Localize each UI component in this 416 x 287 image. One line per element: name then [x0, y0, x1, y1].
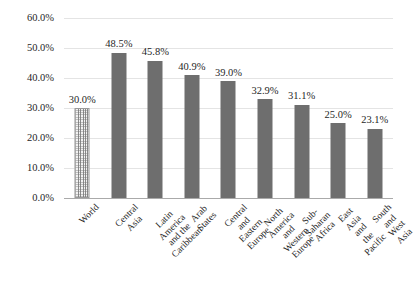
y-tick-label: 20.0% — [27, 133, 54, 144]
bar[interactable] — [294, 105, 309, 198]
bar-value-label: 25.0% — [325, 110, 352, 121]
bar-group: 48.5% — [101, 18, 138, 198]
bar-group: 25.0% — [320, 18, 357, 198]
x-tick: Sub-Saharan Africa — [283, 200, 320, 287]
bar[interactable] — [111, 53, 126, 199]
x-tick: Central and Eastern Europe — [210, 200, 247, 287]
bar-value-label: 40.9% — [178, 62, 205, 73]
bar-value-label: 45.8% — [142, 47, 169, 58]
y-tick-label: 50.0% — [27, 43, 54, 54]
y-tick-label: 0.0% — [32, 193, 54, 204]
x-axis: WorldCentral AsiaLatin America and the C… — [64, 200, 393, 287]
y-tick-label: 10.0% — [27, 163, 54, 174]
bar-value-label: 32.9% — [251, 86, 278, 97]
bar[interactable] — [221, 81, 236, 198]
bar-group: 23.1% — [356, 18, 393, 198]
bar-value-label: 31.1% — [288, 91, 315, 102]
bar[interactable] — [75, 108, 90, 198]
bar-value-label: 30.0% — [69, 95, 96, 106]
x-tick-label: World — [77, 202, 101, 226]
x-tick-label: South and West Asia — [370, 202, 415, 247]
bar-group: 30.0% — [64, 18, 101, 198]
bar-group: 31.1% — [283, 18, 320, 198]
bar[interactable] — [258, 99, 273, 198]
bar[interactable] — [367, 129, 382, 198]
bar-group: 40.9% — [174, 18, 211, 198]
y-tick-label: 60.0% — [27, 13, 54, 24]
y-tick-label: 30.0% — [27, 103, 54, 114]
y-axis: 0.0%10.0%20.0%30.0%40.0%50.0%60.0% — [0, 18, 60, 198]
y-tick-label: 40.0% — [27, 73, 54, 84]
bar-value-label: 48.5% — [105, 39, 132, 50]
bar[interactable] — [148, 61, 163, 198]
bar-group: 32.9% — [247, 18, 284, 198]
bar[interactable] — [331, 123, 346, 198]
plot-area: 30.0%48.5%45.8%40.9%39.0%32.9%31.1%25.0%… — [64, 18, 393, 198]
x-tick: Central Asia — [101, 200, 138, 287]
x-tick: North America and Western Europe — [247, 200, 284, 287]
x-tick: World — [64, 200, 101, 287]
bar-value-label: 23.1% — [361, 115, 388, 126]
x-tick: East Asia and the Pacific — [320, 200, 357, 287]
bar-group: 45.8% — [137, 18, 174, 198]
x-tick: South and West Asia — [356, 200, 393, 287]
bar-group: 39.0% — [210, 18, 247, 198]
x-tick: Latin America and the Caribbean — [137, 200, 174, 287]
x-tick: Arab States — [174, 200, 211, 287]
axis-baseline — [64, 198, 393, 199]
bar[interactable] — [184, 75, 199, 198]
bar-value-label: 39.0% — [215, 68, 242, 79]
